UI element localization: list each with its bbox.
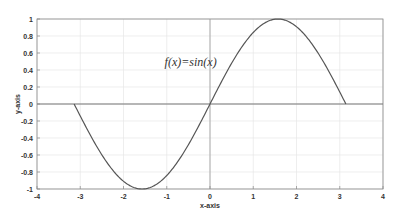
y-tick-label: -1 <box>27 186 33 193</box>
x-axis-ticks: -4-3-2-101234 <box>34 186 385 200</box>
y-tick-label: 0.4 <box>23 67 33 74</box>
x-tick-label: 2 <box>295 193 299 200</box>
y-tick-label: -0.4 <box>21 135 33 142</box>
x-tick-label: 4 <box>381 193 385 200</box>
x-tick-label: -1 <box>164 193 170 200</box>
x-tick-label: -2 <box>120 193 126 200</box>
y-tick-label: 0 <box>29 101 33 108</box>
y-tick-label: -0.8 <box>21 169 33 176</box>
x-tick-label: -4 <box>34 193 40 200</box>
y-tick-label: 0.2 <box>23 84 33 91</box>
y-tick-label: -0.2 <box>21 118 33 125</box>
x-tick-label: 1 <box>251 193 255 200</box>
x-tick-label: 0 <box>208 193 212 200</box>
y-tick-label: 0.8 <box>23 33 33 40</box>
x-tick-label: -3 <box>77 193 83 200</box>
x-axis-label: x-axis <box>200 202 220 209</box>
sine-chart: -4-3-2-101234 -1-0.8-0.6-0.4-0.200.20.40… <box>0 0 398 223</box>
y-axis-label: y-axis <box>14 94 22 114</box>
y-tick-label: -0.6 <box>21 152 33 159</box>
function-annotation: f(x)=sin(x) <box>165 55 217 69</box>
x-tick-label: 3 <box>338 193 342 200</box>
y-tick-label: 0.6 <box>23 50 33 57</box>
y-tick-label: 1 <box>29 16 33 23</box>
